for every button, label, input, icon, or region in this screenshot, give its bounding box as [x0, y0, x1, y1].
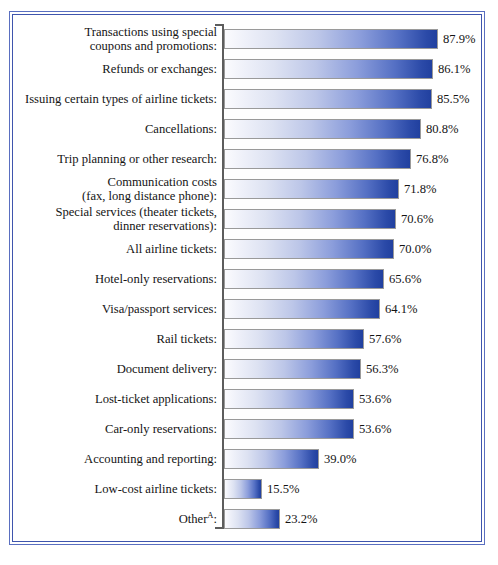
bar-category-label-line: Special services (theater tickets,: [55, 205, 217, 220]
bar-category-label: Document delivery:: [7, 354, 217, 384]
bar-row: OtherA:23.2%: [0, 504, 498, 534]
bar-category-label: Car-only reservations:: [7, 414, 217, 444]
bar-category-label: Special services (theater tickets,dinner…: [7, 204, 217, 234]
bar-value-label: 70.6%: [396, 209, 434, 229]
bar-value-label: 53.6%: [354, 389, 392, 409]
bar-category-label-line: coupons and promotions:: [90, 39, 217, 54]
bar-category-label-line: Communication costs: [108, 175, 218, 190]
bar-chart-plot-area: Transactions using specialcoupons and pr…: [0, 0, 498, 565]
bar-row: Hotel-only reservations:65.6%: [0, 264, 498, 294]
bar-category-label-line: OtherA:: [179, 512, 217, 527]
bar-category-label: Lost-ticket applications:: [7, 384, 217, 414]
bar-value-label: 71.8%: [399, 179, 437, 199]
bar-category-label: Issuing certain types of airline tickets…: [7, 84, 217, 114]
bar-row: Lost-ticket applications:53.6%: [0, 384, 498, 414]
bar[interactable]: [224, 119, 421, 139]
bar-category-label: Low-cost airline tickets:: [7, 474, 217, 504]
bar[interactable]: [224, 479, 262, 499]
bar[interactable]: [224, 389, 354, 409]
bar-row: Trip planning or other research:76.8%: [0, 144, 498, 174]
bar-category-label-line: Car-only reservations:: [105, 422, 217, 437]
bar-category-label-line: All airline tickets:: [126, 242, 217, 257]
bar-row: Transactions using specialcoupons and pr…: [0, 24, 498, 54]
bar[interactable]: [224, 89, 432, 109]
bar-category-label-line: Cancellations:: [145, 122, 217, 137]
bar-value-label: 87.9%: [438, 29, 476, 49]
bar-row: Document delivery:56.3%: [0, 354, 498, 384]
bar-row: Low-cost airline tickets:15.5%: [0, 474, 498, 504]
footnote-superscript: A: [207, 510, 213, 520]
bar-value-label: 15.5%: [262, 479, 300, 499]
bar[interactable]: [224, 419, 354, 439]
bar-category-label-line: Document delivery:: [117, 362, 217, 377]
bar-category-label: Transactions using specialcoupons and pr…: [7, 24, 217, 54]
bar[interactable]: [224, 269, 384, 289]
bar-category-label-line: Issuing certain types of airline tickets…: [25, 92, 217, 107]
bar-row: Special services (theater tickets,dinner…: [0, 204, 498, 234]
bar-category-label: OtherA:: [7, 504, 217, 534]
bar-value-label: 80.8%: [421, 119, 459, 139]
bar[interactable]: [224, 29, 438, 49]
bar-category-label-line: Low-cost airline tickets:: [95, 482, 217, 497]
bar-row: Visa/passport services:64.1%: [0, 294, 498, 324]
bar-row: Accounting and reporting:39.0%: [0, 444, 498, 474]
bar[interactable]: [224, 509, 280, 529]
bar-category-label-line: Visa/passport services:: [102, 302, 217, 317]
bar-value-label: 39.0%: [319, 449, 357, 469]
bar-category-label: Trip planning or other research:: [7, 144, 217, 174]
bar-value-label: 65.6%: [384, 269, 422, 289]
bar-category-label: Cancellations:: [7, 114, 217, 144]
bar-value-label: 70.0%: [394, 239, 432, 259]
bar-category-label-line: (fax, long distance phone):: [82, 189, 217, 204]
bar[interactable]: [224, 449, 319, 469]
bar-row: Rail tickets:57.6%: [0, 324, 498, 354]
bar-value-label: 56.3%: [361, 359, 399, 379]
bar-row: Issuing certain types of airline tickets…: [0, 84, 498, 114]
bar-value-label: 57.6%: [364, 329, 402, 349]
bar-category-label: Rail tickets:: [7, 324, 217, 354]
bar[interactable]: [224, 359, 361, 379]
bar[interactable]: [224, 59, 433, 79]
bar-value-label: 85.5%: [432, 89, 470, 109]
bar-category-label-line: Refunds or exchanges:: [102, 62, 217, 77]
bar[interactable]: [224, 209, 396, 229]
bar-category-label-line: Hotel-only reservations:: [95, 272, 217, 287]
bar-row: Cancellations:80.8%: [0, 114, 498, 144]
bar-value-label: 23.2%: [280, 509, 318, 529]
bar-row: Car-only reservations:53.6%: [0, 414, 498, 444]
bar[interactable]: [224, 179, 399, 199]
bar-category-label: Visa/passport services:: [7, 294, 217, 324]
bar-category-label: Accounting and reporting:: [7, 444, 217, 474]
bar-category-label: Hotel-only reservations:: [7, 264, 217, 294]
bar-value-label: 86.1%: [433, 59, 471, 79]
bar[interactable]: [224, 239, 394, 259]
bar-row: Communication costs(fax, long distance p…: [0, 174, 498, 204]
bar-category-label: Refunds or exchanges:: [7, 54, 217, 84]
bar-row: Refunds or exchanges:86.1%: [0, 54, 498, 84]
bar-category-label: All airline tickets:: [7, 234, 217, 264]
bar-value-label: 64.1%: [380, 299, 418, 319]
bar-row: All airline tickets:70.0%: [0, 234, 498, 264]
bar-category-label-line: Transactions using special: [85, 25, 217, 40]
bar-category-label-line: dinner reservations):: [113, 219, 217, 234]
bar-category-label-line: Lost-ticket applications:: [95, 392, 217, 407]
bar-value-label: 53.6%: [354, 419, 392, 439]
bar-category-label-line: Accounting and reporting:: [84, 452, 217, 467]
bar[interactable]: [224, 149, 411, 169]
bar-category-label: Communication costs(fax, long distance p…: [7, 174, 217, 204]
bar[interactable]: [224, 329, 364, 349]
bar-category-label-line: Trip planning or other research:: [57, 152, 217, 167]
bar-value-label: 76.8%: [411, 149, 449, 169]
bar-category-label-line: Rail tickets:: [156, 332, 217, 347]
bar[interactable]: [224, 299, 380, 319]
